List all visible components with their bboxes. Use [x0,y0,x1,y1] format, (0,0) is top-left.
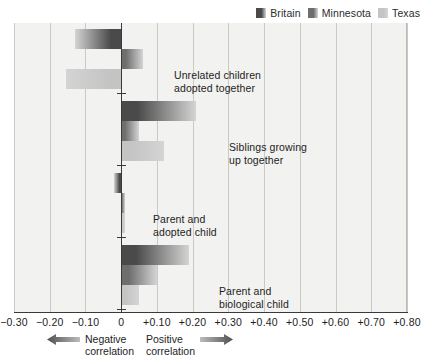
tick-label: +0.80 [393,316,421,328]
bar [121,121,139,141]
arrow-right-icon [200,334,233,345]
gridline [407,23,408,312]
gridline [14,23,15,312]
chart-legend: BritainMinnesotaTexas [256,6,420,20]
bar [75,29,121,49]
legend-swatch-britain [256,8,266,18]
legend-entry: Minnesota [308,7,371,19]
bar [114,173,121,193]
tick-label: −0.30 [0,316,28,328]
tick-label: +0.10 [143,316,171,328]
bar [121,285,139,305]
tick-label: +0.70 [357,316,385,328]
gridline [336,23,337,312]
category-label: Unrelated children adopted together [174,69,261,94]
tick-label: 0 [118,316,124,328]
gridline [371,23,372,312]
legend-label: Minnesota [322,7,371,19]
tick-label: +0.50 [286,316,314,328]
tick-label: −0.20 [36,316,64,328]
arrow-left-icon [47,334,80,345]
bar [121,245,189,265]
negative-correlation-label: Negative correlation [85,332,134,357]
bar [121,49,142,69]
group-tick [117,237,126,238]
category-label: Parent and biological child [219,285,289,310]
category-label: Siblings growing up together [229,141,307,166]
legend-label: Texas [392,7,420,19]
tick-label: +0.30 [215,316,243,328]
gridline [85,23,86,312]
axis-baseline [14,312,408,313]
bar [121,265,157,285]
gridline [228,23,229,312]
gridline [157,23,158,312]
gridline [300,23,301,312]
legend-entry: Britain [256,7,300,19]
correlation-bar-chart: BritainMinnesotaTexas Unrelated children… [0,0,427,362]
negative-correlation-indicator: Negative correlation [47,332,134,357]
tick-label: −0.10 [72,316,100,328]
x-axis-tick-labels: −0.30−0.20−0.100+0.10+0.20+0.30+0.40+0.5… [0,316,427,330]
tick-label: +0.60 [322,316,350,328]
bar [121,141,164,161]
group-tick [117,165,126,166]
tick-label: +0.40 [250,316,278,328]
tick-label: +0.20 [179,316,207,328]
plot-area: Unrelated children adopted togetherSibli… [14,23,407,312]
gridline [50,23,51,312]
correlation-direction-legend: Negative correlation Positive correlatio… [0,332,427,362]
legend-swatch-minnesota [308,8,318,18]
bar [66,69,121,89]
legend-entry: Texas [378,7,420,19]
group-tick [117,93,126,94]
group-tick [117,309,126,310]
zero-line [121,23,122,312]
legend-swatch-texas [378,8,388,18]
legend-label: Britain [270,7,300,19]
positive-correlation-indicator: Positive correlation [146,332,233,357]
gridline [264,23,265,312]
bar [121,101,196,121]
positive-correlation-label: Positive correlation [146,332,195,357]
category-label: Parent and adopted child [153,213,217,238]
gridline [193,23,194,312]
